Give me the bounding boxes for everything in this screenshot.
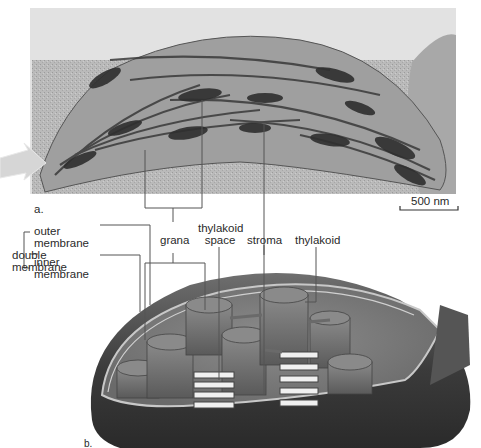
outer-membrane-label: outer membrane <box>34 225 89 249</box>
thylakoid-label: thylakoid <box>295 234 340 246</box>
inner-membrane-label: inner membrane <box>34 256 89 280</box>
granum <box>328 354 372 394</box>
grana-label: grana <box>160 234 189 246</box>
panel-b-label: b. <box>84 438 92 448</box>
panel-a-label: a. <box>34 203 44 215</box>
thylakoid-space-label: thylakoid space <box>198 222 242 246</box>
stroma-label: stroma <box>247 234 282 246</box>
scale-bar-label: 500 nm <box>411 195 449 207</box>
